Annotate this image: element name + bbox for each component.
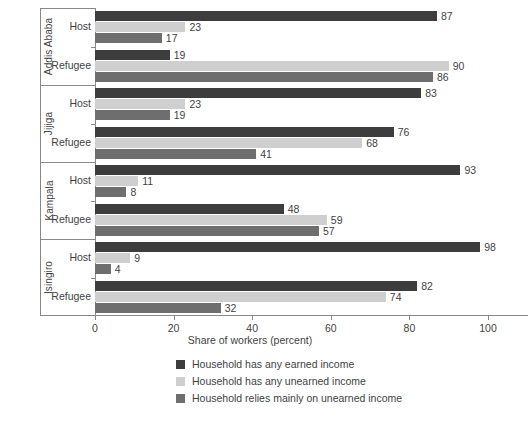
legend-item: Household relies mainly on unearned inco… (176, 390, 476, 406)
bar-value-label: 19 (174, 110, 186, 120)
bar (95, 138, 362, 148)
city-axis-label-text: Jijiga (44, 112, 55, 135)
x-axis-tick (95, 316, 96, 320)
bar (95, 204, 284, 214)
bar-value-label: 23 (189, 99, 201, 109)
bar-value-label: 93 (464, 165, 476, 175)
group-separator (40, 162, 96, 163)
bar-value-label: 48 (288, 204, 300, 214)
bar (95, 99, 185, 109)
bar-value-label: 57 (323, 226, 335, 236)
bar (95, 253, 130, 263)
bar (95, 33, 162, 43)
legend-item: Household has any earned income (176, 356, 476, 372)
chart-legend: Household has any earned incomeHousehold… (176, 356, 476, 407)
bar-value-label: 82 (421, 281, 433, 291)
bar (95, 215, 327, 225)
bar (95, 281, 417, 291)
category-label-host: Host (51, 251, 91, 263)
bar-value-label: 19 (174, 50, 186, 60)
category-label-refugee: Refugee (51, 59, 91, 71)
bars-layer: 8723171990868323197668419311848595798948… (95, 8, 528, 316)
group-separator (40, 85, 96, 86)
bar-value-label: 41 (260, 149, 272, 159)
bar (95, 242, 480, 252)
bar (95, 50, 170, 60)
legend-swatch-icon (176, 377, 185, 386)
bar (95, 165, 460, 175)
bar (95, 72, 433, 82)
bar-value-label: 59 (331, 215, 343, 225)
bar-value-label: 32 (225, 303, 237, 313)
plot-area: Addis AbabaHostRefugeeJijigaHostRefugeeK… (40, 8, 488, 316)
bar-value-label: 11 (142, 176, 153, 186)
legend-label: Household has any earned income (192, 358, 354, 370)
x-axis-tick-label: 0 (92, 322, 98, 334)
bar (95, 187, 126, 197)
legend-item: Household has any unearned income (176, 373, 476, 389)
legend-label: Household relies mainly on unearned inco… (192, 392, 402, 404)
x-axis: 020406080100 (95, 316, 488, 317)
bar-value-label: 98 (484, 242, 496, 252)
category-label-host: Host (51, 97, 91, 109)
bar-value-label: 17 (166, 33, 178, 43)
bar (95, 88, 421, 98)
bar (95, 264, 111, 274)
x-axis-tick (331, 316, 332, 320)
x-axis-tick-label: 60 (325, 322, 337, 334)
legend-swatch-icon (176, 394, 185, 403)
x-axis-title: Share of workers (percent) (0, 334, 500, 346)
x-axis-tick-label: 100 (479, 322, 497, 334)
x-axis-tick (174, 316, 175, 320)
bar-value-label: 76 (398, 127, 410, 137)
bar (95, 292, 386, 302)
x-axis-tick (252, 316, 253, 320)
bar (95, 11, 437, 21)
bar-value-label: 23 (189, 22, 201, 32)
category-label-host: Host (51, 174, 91, 186)
x-axis-tick (488, 316, 489, 320)
bar (95, 61, 449, 71)
category-label-refugee: Refugee (51, 213, 91, 225)
bar-value-label: 8 (130, 187, 136, 197)
x-axis-tick-label: 80 (404, 322, 416, 334)
legend-label: Household has any unearned income (192, 375, 366, 387)
bar (95, 176, 138, 186)
x-axis-tick-label: 20 (168, 322, 180, 334)
bar-value-label: 83 (425, 88, 437, 98)
x-axis-tick (409, 316, 410, 320)
bar (95, 110, 170, 120)
bar (95, 226, 319, 236)
category-label-refugee: Refugee (51, 290, 91, 302)
bar-value-label: 68 (366, 138, 378, 148)
group-separator (40, 239, 96, 240)
bar (95, 127, 394, 137)
category-label-host: Host (51, 20, 91, 32)
bar-value-label: 86 (437, 72, 449, 82)
bar (95, 303, 221, 313)
bar-value-label: 87 (441, 11, 453, 21)
x-axis-tick-label: 40 (246, 322, 258, 334)
bar-value-label: 4 (115, 264, 121, 274)
bar-value-label: 9 (134, 253, 140, 263)
bar (95, 22, 185, 32)
legend-swatch-icon (176, 360, 185, 369)
bar-value-label: 74 (390, 292, 402, 302)
bar-value-label: 90 (453, 61, 465, 71)
bar (95, 149, 256, 159)
category-label-refugee: Refugee (51, 136, 91, 148)
